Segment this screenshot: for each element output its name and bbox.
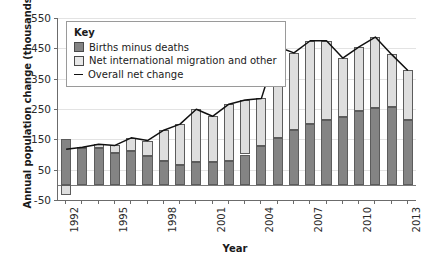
x-axis-tick-mark [342, 200, 343, 204]
y-axis-tick-label: 350 [12, 73, 58, 85]
x-axis-tick-mark [374, 200, 375, 204]
x-axis-ticks: 19921995199820012004200720102013 [57, 200, 415, 260]
x-axis-tick-mark [260, 200, 261, 204]
x-axis-tick-mark [326, 200, 327, 204]
x-axis-tick-mark [391, 200, 392, 204]
y-axis-tick-label: 250 [12, 103, 58, 115]
x-axis-tick-label: 1995 [118, 207, 129, 232]
x-axis-tick-mark [195, 200, 196, 204]
y-axis-tick-mark [54, 79, 58, 80]
legend-line-icon [74, 74, 83, 75]
x-axis-tick-label: 1992 [69, 207, 80, 232]
x-axis-tick-mark [179, 200, 180, 204]
y-axis-tick-label: 50 [12, 164, 58, 176]
x-axis-tick-label: 2001 [216, 207, 227, 232]
legend-item-births-minus-deaths: Births minus deaths [74, 41, 277, 55]
legend-label: Net international migration and other [89, 54, 277, 68]
chart-legend: Key Births minus deaths Net internationa… [66, 21, 286, 87]
x-axis-tick-mark [98, 200, 99, 204]
x-axis-tick-mark [244, 200, 245, 204]
x-axis-tick-label: 2007 [313, 207, 324, 232]
y-axis-tick-label: -50 [12, 194, 58, 206]
legend-label: Births minus deaths [89, 41, 189, 55]
x-axis-tick-mark [407, 200, 408, 204]
x-axis-tick-mark [81, 200, 82, 204]
x-axis-tick-mark [228, 200, 229, 204]
legend-swatch-icon [74, 42, 84, 52]
y-axis-tick-mark [54, 18, 58, 19]
x-axis-tick-mark [212, 200, 213, 204]
y-axis-tick-mark [54, 139, 58, 140]
x-axis-tick-mark [147, 200, 148, 204]
x-axis-tick-mark [65, 200, 66, 204]
x-axis-tick-label: 1998 [167, 207, 178, 232]
legend-item-net-migration: Net international migration and other [74, 54, 277, 68]
x-axis-tick-mark [130, 200, 131, 204]
x-axis-tick-label: 2004 [264, 207, 275, 232]
population-change-chart: Annual population change (thousands) Yea… [0, 0, 430, 261]
legend-item-overall-net-change: Overall net change [74, 68, 277, 82]
legend-label: Overall net change [88, 68, 183, 82]
y-axis-tick-label: 550 [12, 12, 58, 24]
y-axis-tick-label: 450 [12, 42, 58, 54]
x-axis-tick-mark [309, 200, 310, 204]
y-axis-tick-mark [54, 109, 58, 110]
x-axis-tick-label: 2013 [411, 207, 422, 232]
x-axis-tick-mark [277, 200, 278, 204]
x-axis-tick-mark [358, 200, 359, 204]
y-axis-tick-mark [54, 170, 58, 171]
y-axis-tick-label: 150 [12, 133, 58, 145]
x-axis-tick-mark [163, 200, 164, 204]
y-axis-tick-mark [54, 48, 58, 49]
x-axis-tick-label: 2010 [362, 207, 373, 232]
x-axis-tick-mark [114, 200, 115, 204]
legend-swatch-icon [74, 56, 84, 66]
legend-title: Key [74, 26, 277, 40]
x-axis-tick-mark [293, 200, 294, 204]
